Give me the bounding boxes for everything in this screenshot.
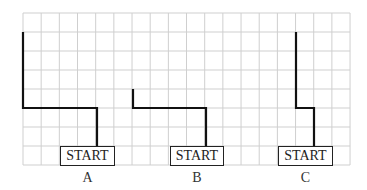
start-box-a: START	[60, 146, 115, 166]
start-box-c: START	[278, 146, 333, 166]
figure-label-a: A	[78, 170, 98, 186]
figure-label-c: C	[296, 170, 316, 186]
path-b	[133, 89, 206, 146]
figure-label-b: B	[187, 170, 207, 186]
grid-lines	[23, 13, 350, 165]
start-box-b: START	[170, 146, 224, 166]
